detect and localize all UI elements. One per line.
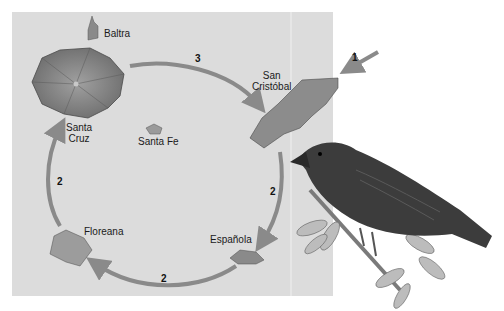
label-santa-cruz-line1: Santa [66, 122, 92, 133]
island-santa-cruz [32, 48, 124, 118]
label-san-cristobal: San Cristóbal [252, 70, 291, 92]
label-baltra: Baltra [104, 28, 130, 39]
island-santa-fe [146, 124, 162, 134]
label-san-cristobal-line2: Cristóbal [252, 81, 291, 92]
arrow-number-floreana-santacruz: 2 [57, 176, 63, 187]
label-santa-fe: Santa Fe [138, 136, 179, 147]
finch-illustration [290, 143, 492, 311]
diagram-art [0, 0, 504, 311]
island-baltra [88, 16, 98, 40]
arrow-santacruz-to-cristobal [130, 64, 258, 104]
arrow-cristobal-to-espanola [262, 152, 282, 242]
island-espanola [230, 250, 264, 264]
arrow-number-espanola-floreana: 2 [161, 273, 167, 284]
label-espanola: Española [210, 234, 252, 245]
label-san-cristobal-line1: San [252, 70, 291, 81]
arrow-number-arrival: 1 [352, 52, 358, 63]
label-floreana: Floreana [84, 226, 123, 237]
label-santa-cruz-line2: Cruz [66, 133, 92, 144]
arrow-number-cristobal-espanola: 2 [270, 186, 276, 197]
arrow-number-santacruz-cristobal: 3 [195, 53, 201, 64]
label-santa-cruz: Santa Cruz [66, 122, 92, 144]
